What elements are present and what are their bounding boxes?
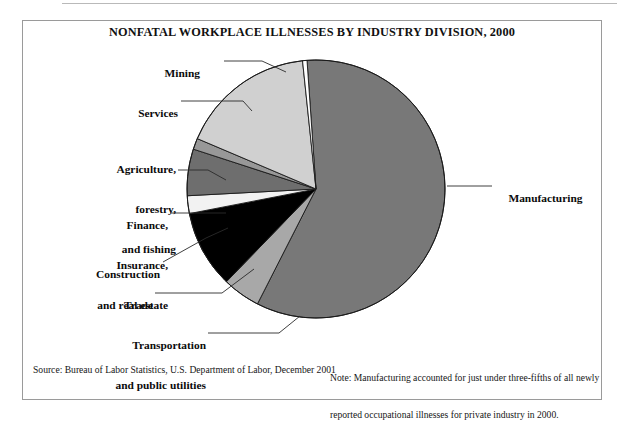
label-finance-line1: Finance, bbox=[58, 219, 168, 232]
source-note: Source: Bureau of Labor Statistics, U.S.… bbox=[33, 364, 336, 376]
leader-line-transportation bbox=[208, 316, 300, 333]
label-services-text: Services bbox=[138, 107, 178, 119]
label-mining-text: Mining bbox=[165, 67, 200, 79]
label-mining: Mining bbox=[120, 54, 200, 94]
label-transportation-line2: and public utilities bbox=[48, 379, 206, 392]
figure-note: Note: Manufacturing accounted for just u… bbox=[330, 348, 599, 424]
label-manufacturing-text: Manufacturing bbox=[508, 192, 582, 204]
figure-note-line2: reported occupational illnesses for priv… bbox=[330, 409, 599, 421]
label-manufacturing: Manufacturing bbox=[497, 179, 607, 219]
label-trade-text: Trade bbox=[124, 299, 153, 311]
label-services: Services bbox=[90, 94, 178, 134]
label-agriculture-line1: Agriculture, bbox=[66, 163, 176, 176]
pie-slices bbox=[187, 60, 445, 318]
figure-note-line1: Note: Manufacturing accounted for just u… bbox=[330, 372, 599, 384]
label-construction-text: Construction bbox=[96, 268, 160, 280]
label-transportation-line1: Transportation bbox=[48, 339, 206, 352]
